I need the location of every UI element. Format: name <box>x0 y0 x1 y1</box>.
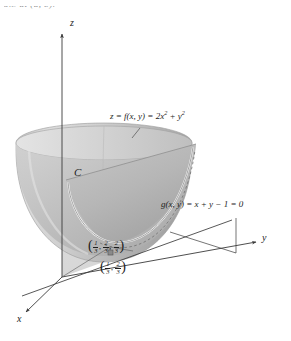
z-axis-label: z <box>70 17 74 28</box>
fraction-x: 13 <box>105 261 110 275</box>
curve-label-c: C <box>74 166 81 178</box>
fraction-y: 23 <box>115 261 120 275</box>
minimum-point-3d-label: (13, 23, 23) <box>88 238 124 254</box>
x-axis-label: x <box>17 313 21 324</box>
comma-2: , <box>109 242 113 251</box>
fraction-x: 13 <box>93 240 98 254</box>
lagrange-multiplier-figure <box>0 0 291 341</box>
fraction-y: 23 <box>103 240 108 254</box>
paren-open: ( <box>88 238 93 253</box>
comma-1: , <box>99 242 103 251</box>
minimum-point-2d-label: (13, 23) <box>100 259 126 275</box>
surface-equation-middle: + y <box>167 111 182 121</box>
surface-equation-exponent-2: 2 <box>182 110 185 116</box>
surface-equation-label: z = f(x, y) = 2x2 + y2 <box>110 111 185 121</box>
constraint-equation-label: g(x, y) = x + y − 1 = 0 <box>161 199 243 209</box>
paren-open: ( <box>100 259 105 274</box>
y-axis-label: y <box>262 232 266 243</box>
paren-close: ) <box>121 259 126 274</box>
surface-equation-prefix: z = f(x, y) = 2x <box>110 111 164 121</box>
comma-1: , <box>111 263 115 272</box>
x-axis-line <box>26 277 62 312</box>
paren-close: ) <box>119 238 124 253</box>
